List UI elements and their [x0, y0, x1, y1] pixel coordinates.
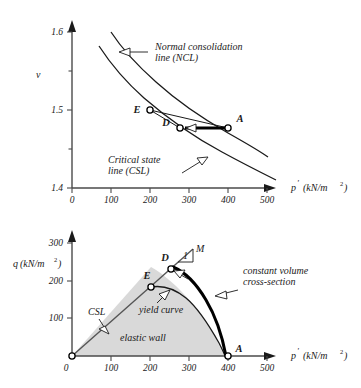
csl-annotation-line1-upper: Critical state: [108, 154, 161, 165]
lower-panel: 300 200 100 q (kN/m 2 ) 0 100 200 300 40…: [13, 230, 348, 373]
lower-x-axis-title-exponent: 2: [340, 348, 343, 355]
point-label-a-lower: A: [234, 343, 242, 354]
lower-x-ticklabel-100: 100: [104, 363, 119, 373]
point-d-upper[interactable]: [177, 125, 183, 131]
upper-x-axis-title-prime: ': [297, 178, 299, 188]
upper-y-ticklabel-1.6: 1.6: [51, 27, 63, 37]
point-d-lower[interactable]: [168, 266, 174, 272]
upper-x-axis-title-units: (kN/m: [303, 182, 327, 194]
lower-y-axis-title-units: (kN/m: [20, 258, 44, 270]
upper-x-axis-title: p ' (kN/m 2 ): [290, 178, 348, 194]
upper-y-ticklabel-1.4: 1.4: [51, 183, 63, 193]
csl-annotation-arrowhead-upper: [197, 157, 208, 165]
upper-x-ticklabel-300: 300: [181, 195, 197, 205]
point-label-d-lower: D: [160, 252, 169, 263]
upper-y-ticklabel-1.5: 1.5: [51, 105, 63, 115]
slope-triangle: M 1: [178, 243, 205, 262]
lower-y-axis-title-close: ): [57, 258, 62, 270]
upper-x-ticklabel-400: 400: [221, 195, 236, 205]
ncl-annotation: Normal consolidation line (NCL): [119, 41, 243, 64]
ncl-annotation-line2: line (NCL): [155, 52, 199, 64]
csl-annotation-line2-upper: line (CSL): [108, 165, 150, 177]
lower-y-axis-title-symbol: q: [13, 258, 18, 269]
lower-x-axis-title-symbol: p: [290, 350, 296, 361]
yield-curve-label: yield curve: [138, 304, 184, 315]
upper-panel: 1.6 1.5 1.4 v 0 100 200 300 400 500 p ' …: [36, 20, 348, 205]
upper-x-ticklabel-0: 0: [70, 195, 75, 205]
lower-y-ticklabel-300: 300: [48, 238, 64, 248]
lower-x-axis-arrow: [264, 352, 276, 360]
lower-x-ticklabel-0: 0: [64, 363, 69, 373]
figure-svg: 1.6 1.5 1.4 v 0 100 200 300 400 500 p ' …: [0, 0, 361, 388]
upper-y-axis: 1.6 1.5 1.4 v: [36, 20, 76, 193]
lower-y-axis-title: q (kN/m 2 ): [13, 256, 62, 270]
lower-y-ticklabel-200: 200: [49, 276, 64, 286]
point-e-lower[interactable]: [148, 284, 154, 290]
point-origin-lower[interactable]: [69, 353, 75, 359]
lower-x-axis-title: p ' (kN/m 2 ): [290, 346, 348, 362]
constant-volume-label-line1: constant volume: [243, 265, 309, 276]
lower-y-axis: 300 200 100 q (kN/m 2 ): [13, 230, 76, 356]
constant-volume-label-line2: cross-section: [243, 276, 295, 287]
lower-x-ticklabel-400: 400: [221, 363, 236, 373]
upper-x-axis-title-close: ): [343, 182, 348, 194]
lower-y-ticklabel-100: 100: [49, 313, 64, 323]
lower-x-ticklabel-300: 300: [181, 363, 197, 373]
point-label-a-upper: A: [235, 113, 243, 124]
point-a-lower[interactable]: [225, 353, 231, 359]
point-a-upper[interactable]: [225, 125, 231, 131]
lower-x-ticklabel-200: 200: [143, 363, 158, 373]
constant-volume-annotation: constant volume cross-section: [215, 265, 309, 299]
upper-x-ticklabel-100: 100: [104, 195, 119, 205]
point-label-d-upper: D: [161, 117, 170, 128]
point-label-e-upper: E: [132, 104, 140, 115]
lower-x-axis-title-units: (kN/m: [303, 350, 327, 362]
upper-x-ticklabel-500: 500: [260, 195, 275, 205]
slope-label-one: 1: [183, 250, 188, 261]
point-label-e-lower: E: [142, 270, 150, 281]
upper-x-axis: 0 100 200 300 400 500 p ' (kN/m 2 ): [70, 178, 348, 205]
upper-x-axis-title-exponent: 2: [340, 180, 343, 187]
soil-mechanics-figure: 1.6 1.5 1.4 v 0 100 200 300 400 500 p ' …: [0, 0, 361, 388]
upper-x-axis-title-symbol: p: [290, 182, 296, 193]
lower-x-axis-title-prime: ': [297, 346, 299, 356]
upper-x-axis-arrow: [264, 184, 276, 192]
ncl-annotation-line1: Normal consolidation: [154, 41, 243, 52]
elastic-wall-label: elastic wall: [120, 332, 166, 343]
upper-y-axis-title: v: [36, 69, 41, 80]
point-e-upper[interactable]: [147, 107, 153, 113]
constant-volume-arrowhead-lower: [215, 291, 227, 299]
slope-label-m: M: [195, 243, 205, 254]
lower-y-axis-arrow: [68, 230, 76, 242]
lower-x-ticklabel-500: 500: [260, 363, 275, 373]
lower-y-axis-title-exponent: 2: [54, 256, 57, 263]
upper-x-ticklabel-200: 200: [143, 195, 158, 205]
csl-annotation-label-lower: CSL: [88, 306, 106, 317]
upper-y-axis-arrow: [68, 20, 76, 32]
lower-x-axis-title-close: ): [343, 350, 348, 362]
csl-annotation-upper: Critical state line (CSL): [108, 154, 208, 177]
